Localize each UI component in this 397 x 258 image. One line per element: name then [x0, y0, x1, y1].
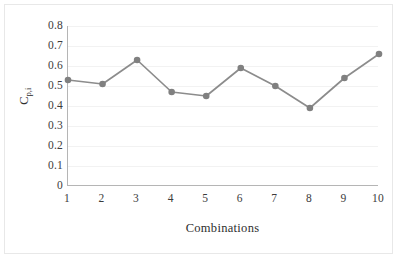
y-axis-title: Cp,i: [17, 79, 34, 113]
x-axis-title: Combinations: [67, 221, 378, 236]
data-point-marker: [272, 83, 279, 90]
x-axis-tick-label: 8: [292, 192, 326, 205]
y-axis-tick-label: 0.7: [7, 40, 63, 51]
data-point-marker: [168, 89, 175, 96]
data-point-marker: [307, 105, 314, 112]
plot-area: [67, 26, 378, 186]
chart-figure: 00.10.20.30.40.50.60.70.8 Cp,i 123456789…: [0, 0, 397, 258]
data-point-marker: [99, 81, 106, 88]
y-axis-title-subscript: p,i: [23, 88, 33, 97]
x-axis-tick-label: 1: [50, 192, 84, 205]
y-axis-title-main: C: [17, 96, 31, 104]
data-point-marker: [237, 65, 244, 72]
y-axis-tick-label: 0.4: [7, 100, 63, 111]
x-axis-tick-labels: 12345678910: [67, 192, 378, 208]
x-axis-tick-label: 4: [154, 192, 188, 205]
data-point-marker: [65, 77, 72, 84]
x-axis-tick-label: 2: [85, 192, 119, 205]
series-line: [68, 54, 379, 108]
y-axis-tick-label: 0.1: [7, 160, 63, 171]
x-axis-tick-label: 9: [326, 192, 360, 205]
x-axis-tick-label: 7: [257, 192, 291, 205]
x-axis-tick-label: 5: [188, 192, 222, 205]
data-point-marker: [134, 57, 141, 64]
y-axis-tick-label: 0.6: [7, 60, 63, 71]
x-axis-tick-label: 3: [119, 192, 153, 205]
y-axis-tick-label: 0.8: [7, 20, 63, 31]
y-axis-tick-label: 0.5: [7, 80, 63, 91]
series-line-chart: [68, 26, 379, 186]
x-axis-tick-label: 6: [223, 192, 257, 205]
data-point-marker: [376, 51, 383, 58]
data-point-marker: [341, 75, 348, 82]
y-axis-tick-labels: 00.10.20.30.40.50.60.70.8: [4, 26, 63, 186]
y-axis-tick-label: 0.3: [7, 120, 63, 131]
x-axis-tick-label: 10: [361, 192, 395, 205]
y-axis-tick-label: 0: [7, 180, 63, 191]
data-point-marker: [203, 93, 210, 100]
y-axis-tick-label: 0.2: [7, 140, 63, 151]
